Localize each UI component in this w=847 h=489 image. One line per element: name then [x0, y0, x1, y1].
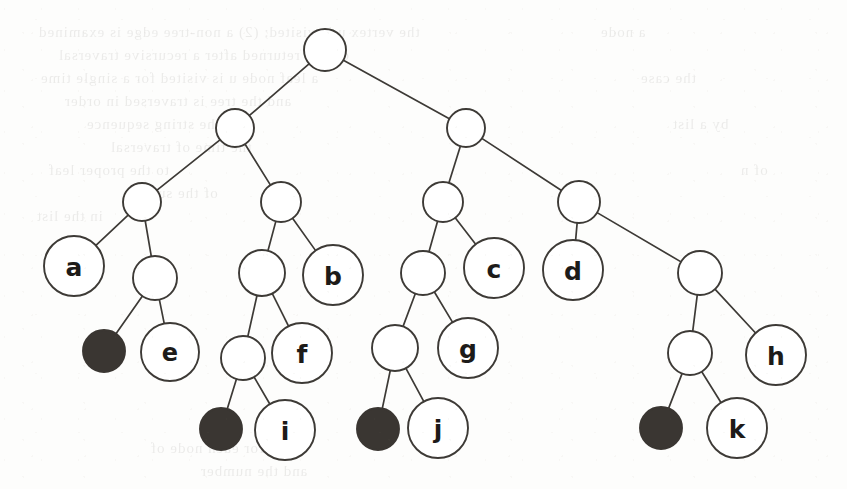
- tree-edge: [596, 212, 682, 262]
- tree-node-labeled: a: [44, 236, 104, 296]
- node-layer: abcdefghijk: [44, 29, 806, 460]
- tree-node-filled: [200, 408, 242, 450]
- node-label-h: h: [767, 342, 785, 371]
- tree-edge: [576, 222, 578, 241]
- node-circle-filled: [83, 330, 125, 372]
- tree-node-labeled: k: [707, 398, 767, 458]
- tree-node-internal: [133, 256, 177, 300]
- node-circle-outline: [447, 109, 485, 147]
- node-circle-outline: [668, 331, 712, 375]
- tree-node-internal: [261, 182, 301, 222]
- node-label-c: c: [487, 255, 502, 284]
- tree-edge: [449, 145, 461, 184]
- tree-node-labeled: d: [543, 240, 603, 300]
- node-circle-filled: [640, 407, 682, 449]
- tree-edge: [481, 138, 562, 191]
- tree-node-internal: [372, 325, 418, 371]
- binary-tree-figure: abcdefghijk: [0, 0, 847, 489]
- tree-node-internal: [239, 250, 285, 296]
- tree-edge: [343, 60, 451, 120]
- node-label-d: d: [564, 257, 582, 286]
- tree-edge: [434, 291, 453, 323]
- node-circle-outline: [261, 182, 301, 222]
- tree-node-internal: [401, 251, 445, 295]
- tree-edge: [714, 288, 756, 333]
- tree-node-internal: [216, 109, 254, 147]
- node-circle-outline: [558, 181, 600, 223]
- tree-node-labeled: c: [464, 238, 524, 298]
- tree-node-internal: [221, 336, 265, 380]
- tree-edge: [249, 63, 310, 116]
- node-circle-outline: [401, 251, 445, 295]
- tree-edge: [405, 367, 424, 402]
- tree-diagram-canvas: the vertex u is visited; (2) a non-tree …: [0, 0, 847, 489]
- node-label-b: b: [324, 262, 342, 291]
- tree-node-labeled: i: [255, 400, 315, 460]
- tree-edge: [403, 293, 416, 328]
- tree-node-internal: [447, 109, 485, 147]
- tree-node-filled: [640, 407, 682, 449]
- tree-edge: [455, 217, 477, 245]
- node-circle-filled: [357, 408, 399, 450]
- tree-edge: [382, 370, 390, 410]
- node-label-i: i: [281, 417, 290, 446]
- tree-edge: [429, 220, 438, 252]
- node-circle-outline: [678, 251, 722, 295]
- node-circle-outline: [304, 29, 346, 71]
- node-circle-outline: [216, 109, 254, 147]
- tree-edge: [292, 217, 316, 251]
- node-label-j: j: [433, 415, 443, 444]
- tree-node-internal: [123, 183, 161, 221]
- node-circle-outline: [372, 325, 418, 371]
- node-circle-outline: [239, 250, 285, 296]
- tree-edge: [701, 371, 721, 404]
- node-circle-filled: [200, 408, 242, 450]
- tree-edge: [693, 294, 698, 332]
- tree-edge: [668, 373, 682, 410]
- node-circle-outline: [133, 256, 177, 300]
- tree-node-filled: [83, 330, 125, 372]
- tree-edge: [245, 143, 271, 186]
- node-label-f: f: [297, 340, 309, 369]
- tree-edge: [254, 376, 271, 405]
- tree-edge: [156, 139, 221, 191]
- tree-node-internal: [423, 182, 463, 222]
- node-circle-outline: [221, 336, 265, 380]
- tree-edge: [115, 295, 143, 334]
- tree-node-labeled: j: [408, 398, 468, 458]
- tree-edge: [95, 214, 129, 246]
- node-circle-outline: [423, 182, 463, 222]
- tree-node-labeled: b: [303, 245, 363, 305]
- node-label-g: g: [459, 335, 477, 364]
- tree-node-internal: [678, 251, 722, 295]
- tree-edge: [272, 293, 289, 327]
- tree-node-internal: [668, 331, 712, 375]
- node-label-e: e: [162, 339, 178, 367]
- tree-edge: [227, 378, 237, 410]
- tree-node-labeled: e: [141, 323, 199, 381]
- tree-node-labeled: g: [438, 318, 498, 378]
- node-label-a: a: [66, 253, 83, 282]
- tree-node-filled: [357, 408, 399, 450]
- tree-node-labeled: f: [272, 323, 332, 383]
- tree-edge: [145, 220, 151, 258]
- tree-node-labeled: h: [746, 325, 806, 385]
- tree-node-internal: [558, 181, 600, 223]
- node-circle-outline: [123, 183, 161, 221]
- tree-edge: [268, 220, 276, 251]
- tree-node-internal: [304, 29, 346, 71]
- tree-edge: [159, 299, 164, 325]
- node-label-k: k: [729, 415, 747, 444]
- tree-edge: [248, 294, 258, 337]
